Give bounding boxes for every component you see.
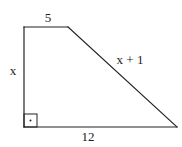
- trapezoid-diagram: 5 x x + 1 12: [0, 0, 182, 147]
- top-side-label: 5: [45, 10, 52, 25]
- left-side-label: x: [10, 63, 17, 78]
- right-angle-marker: [24, 114, 37, 127]
- bottom-side-label: 12: [82, 129, 95, 144]
- right-angle-dot: [30, 120, 32, 122]
- slanted-side: [68, 27, 177, 127]
- trapezoid-edges: [24, 27, 177, 127]
- slanted-side-label: x + 1: [117, 52, 144, 67]
